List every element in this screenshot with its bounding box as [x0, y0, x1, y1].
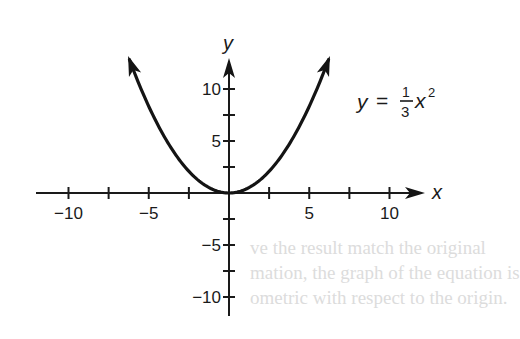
equation-variable: x	[414, 89, 427, 112]
y-tick-label: −5	[202, 236, 221, 255]
equation-denominator: 3	[401, 103, 409, 120]
y-axis-label: y	[221, 32, 234, 54]
equation-lhs: y	[355, 90, 369, 113]
x-tick-label: 5	[305, 204, 314, 223]
y-tick-label: 5	[212, 132, 221, 151]
x-tick-label: 10	[380, 204, 399, 223]
y-tick-label: −10	[192, 288, 221, 307]
x-axis-label: x	[431, 181, 443, 203]
y-axis	[223, 58, 235, 316]
equation-exponent: 2	[428, 85, 435, 100]
equation-equals: =	[376, 89, 388, 112]
x-axis-tick-labels: −10−5510	[54, 204, 399, 223]
y-tick-label: 10	[202, 80, 221, 99]
equation-label: y = 1 3 x 2	[355, 84, 435, 120]
x-tick-label: −5	[139, 204, 158, 223]
equation-numerator: 1	[402, 84, 410, 100]
x-tick-label: −10	[54, 204, 83, 223]
